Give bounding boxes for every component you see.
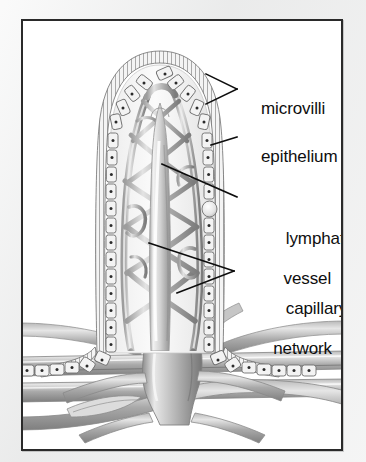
figure-frame: microvilli epithelium lymphatic vessel c… [21, 19, 343, 451]
goblet-cell [202, 201, 217, 217]
label-capillary-network: capillary network [258, 279, 343, 399]
label-lymphatic-line1: lymphatic [286, 229, 343, 248]
label-epithelium: epithelium [261, 147, 338, 166]
figure-root: microvilli epithelium lymphatic vessel c… [0, 0, 366, 462]
label-microvilli: microvilli [261, 99, 325, 118]
label-capillary-line2: network [258, 339, 343, 359]
label-capillary-line1: capillary [286, 299, 343, 318]
